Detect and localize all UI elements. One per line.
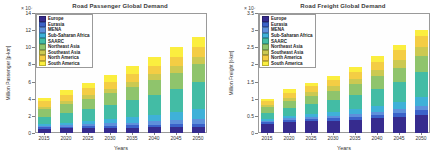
y-tick-mark (32, 13, 35, 14)
bar-segment (371, 89, 384, 106)
bar-segment (82, 88, 95, 95)
bar-segment (82, 109, 95, 121)
bar-segment (104, 82, 117, 90)
bar-segment (104, 93, 117, 105)
legend-label: Northeast Asia (271, 44, 303, 49)
bar-segment (148, 80, 161, 95)
legend-item: South America (262, 61, 313, 67)
x-tick-mark (267, 133, 268, 135)
x-tick-label: 2040 (366, 135, 388, 141)
y-tick-label: 0.5 (223, 113, 254, 119)
stacked-bar (38, 98, 51, 133)
bar-segment (349, 72, 362, 80)
x-tick-label: 2015 (33, 135, 55, 141)
stacked-bar (283, 89, 296, 133)
bar-segment (371, 118, 384, 133)
bar-segment (192, 109, 205, 119)
bar-segment (415, 47, 428, 56)
legend-label: MENA (48, 27, 61, 32)
y-tick-label: 6 (0, 79, 31, 85)
bar-segment (148, 57, 161, 66)
y-tick-label: 2 (223, 61, 254, 67)
bar-segment (393, 82, 406, 102)
x-tick-label: 2035 (121, 135, 143, 141)
bar-segment (371, 76, 384, 88)
bar-segment (38, 129, 51, 133)
bar-segment (148, 66, 161, 75)
bar-segment (349, 95, 362, 109)
bar-segment (349, 120, 362, 133)
x-axis-label: Years (258, 145, 430, 151)
bar-segment (261, 124, 274, 133)
legend: EuropeEurasiaMENASub-Saharan AfricaSAARC… (259, 14, 316, 68)
y-tick-mark (255, 99, 258, 100)
bar-segment (126, 66, 139, 74)
bar-segment (283, 101, 296, 108)
stacked-bar (415, 29, 428, 133)
bar-segment (192, 47, 205, 57)
bar-segment (104, 105, 117, 119)
legend-label: Southeast Asia (48, 50, 80, 55)
y-tick-label: 8 (0, 61, 31, 67)
legend-label: Sub-Saharan Africa (271, 33, 313, 38)
bar-segment (170, 89, 183, 112)
bar-segment (305, 121, 318, 133)
bar-segment (148, 115, 161, 122)
y-tick-label: 2 (0, 113, 31, 119)
x-tick-mark (311, 133, 312, 135)
stacked-bar (148, 57, 161, 133)
y-tick-label: 14 (0, 10, 31, 16)
y-tick-mark (255, 30, 258, 31)
bar-segment (415, 115, 428, 133)
bar-segment (393, 117, 406, 133)
bar-segment (126, 128, 139, 133)
y-tick-mark (255, 13, 258, 14)
y-tick-label: 0 (0, 130, 31, 136)
bar-segment (192, 64, 205, 82)
bar-segment (192, 127, 205, 133)
bar-segment (82, 99, 95, 109)
y-tick-mark (32, 116, 35, 117)
bar-segment (415, 36, 428, 47)
x-tick-label: 2020 (278, 135, 300, 141)
y-tick-mark (255, 64, 258, 65)
x-tick-mark (377, 133, 378, 135)
bar-segment (327, 100, 340, 112)
legend-label: SAARC (48, 39, 64, 44)
bar-segment (283, 122, 296, 133)
legend-label: Europe (271, 16, 287, 21)
y-axis-label: Million Freight [t-km] (228, 50, 234, 95)
bar-segment (393, 102, 406, 109)
legend-label: MENA (271, 27, 284, 32)
y-tick-mark (255, 82, 258, 83)
bar-segment (170, 127, 183, 133)
x-tick-mark (66, 133, 67, 135)
chart-title: Road Freight Global Demand (253, 3, 433, 9)
y-tick-label: 1 (223, 96, 254, 102)
y-tick-mark (32, 47, 35, 48)
stacked-bar (371, 56, 384, 133)
legend-label: North America (48, 55, 79, 60)
y-tick-mark (32, 99, 35, 100)
x-tick-mark (154, 133, 155, 135)
legend-label: Eurasia (271, 22, 287, 27)
x-tick-label: 2050 (187, 135, 209, 141)
y-tick-mark (32, 133, 35, 134)
x-tick-mark (88, 133, 89, 135)
bar-segment (170, 57, 183, 67)
y-tick-label: 3.5 (223, 10, 254, 16)
stacked-bar (261, 99, 274, 133)
bar-segment (170, 73, 183, 89)
x-tick-label: 2015 (256, 135, 278, 141)
x-tick-label: 2025 (77, 135, 99, 141)
bar-segment (60, 104, 73, 113)
x-tick-mark (355, 133, 356, 135)
y-tick-mark (255, 116, 258, 117)
x-tick-mark (198, 133, 199, 135)
stacked-bar (349, 67, 362, 133)
x-tick-label: 2045 (165, 135, 187, 141)
x-tick-mark (110, 133, 111, 135)
y-tick-label: 2.5 (223, 44, 254, 50)
y-tick-label: 0 (223, 130, 254, 136)
y-tick-label: 12 (0, 27, 31, 33)
